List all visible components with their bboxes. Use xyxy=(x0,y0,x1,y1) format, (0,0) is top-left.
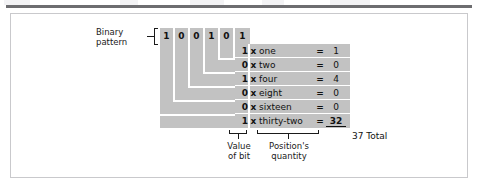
bit-strip-right-cutout xyxy=(250,28,350,44)
bit-cell: 1 xyxy=(235,28,250,44)
equals-symbol: = xyxy=(314,46,326,56)
equals-symbol: = xyxy=(314,102,326,112)
row-result: 0 xyxy=(326,60,346,70)
binary-bit-row: 1 0 0 1 0 1 xyxy=(160,28,250,44)
place-name: four xyxy=(259,74,314,84)
binary-pattern-caption-line1: Binary xyxy=(96,27,146,37)
place-name: sixteen xyxy=(259,102,314,112)
place-name: thirty-two xyxy=(259,116,314,126)
equation-row: 1 x thirty-two = 32 xyxy=(235,114,350,128)
binary-pattern-caption: Binary pattern xyxy=(96,27,146,47)
bit-cell: 0 xyxy=(175,28,190,44)
equals-symbol: = xyxy=(314,88,326,98)
equation-rows: 1 x one = 1 0 x two = 0 1 x four = 4 xyxy=(235,44,350,128)
equation-row: 0 x sixteen = 0 xyxy=(235,100,350,114)
stair-connector-four-h xyxy=(203,72,235,74)
stair-connector-thirtytwo-h xyxy=(160,114,235,116)
bit-cell: 1 xyxy=(160,28,175,44)
times-symbol: x xyxy=(248,74,259,84)
equation-row: 1 x four = 4 xyxy=(235,72,350,86)
row-result: 4 xyxy=(326,74,346,84)
place-name: one xyxy=(259,46,314,56)
value-of-bit-bracket-stem xyxy=(238,134,239,139)
place-name: two xyxy=(259,60,314,70)
times-symbol: x xyxy=(248,102,259,112)
row-bit-value: 1 xyxy=(235,74,248,84)
positions-quantity-label-line2: quantity xyxy=(258,151,320,161)
row-bit-value: 0 xyxy=(235,60,248,70)
row-result: 1 xyxy=(326,46,346,56)
row-bit-value: 1 xyxy=(235,116,248,126)
stair-connector-two-h xyxy=(218,58,235,60)
row-result: 0 xyxy=(326,88,346,98)
row-bit-value: 1 xyxy=(235,46,248,56)
times-symbol: x xyxy=(248,46,259,56)
stair-connector-eight-v xyxy=(188,44,190,88)
binary-pattern-caption-line2: pattern xyxy=(96,37,146,47)
row-bit-value: 0 xyxy=(235,88,248,98)
figure-root: Binary pattern 1 0 0 1 0 1 xyxy=(0,0,480,188)
times-symbol: x xyxy=(248,116,259,126)
equation-row: 0 x eight = 0 xyxy=(235,86,350,100)
bit-cell: 0 xyxy=(190,28,205,44)
bit-cell: 0 xyxy=(220,28,235,44)
stair-connector-eight-h xyxy=(188,86,235,88)
equals-symbol: = xyxy=(314,116,326,126)
equation-row: 0 x two = 0 xyxy=(235,58,350,72)
stair-connector-sixteen-v xyxy=(173,44,175,102)
equals-symbol: = xyxy=(314,74,326,84)
stair-connector-sixteen-h xyxy=(173,100,235,102)
equals-symbol: = xyxy=(314,60,326,70)
place-name: eight xyxy=(259,88,314,98)
row-result: 0 xyxy=(326,102,346,112)
total-label: 37 Total xyxy=(352,131,387,141)
stair-connector-four-v xyxy=(203,44,205,74)
positions-quantity-label: Position's quantity xyxy=(258,141,320,161)
equation-row: 1 x one = 1 xyxy=(235,44,350,58)
top-horizontal-rule xyxy=(6,5,472,8)
caption-left-bracket xyxy=(154,28,158,45)
times-symbol: x xyxy=(248,88,259,98)
bit-cell: 1 xyxy=(205,28,220,44)
diagram-gray-block: 1 0 0 1 0 1 1 x xyxy=(160,28,350,128)
row-bit-value: 0 xyxy=(235,102,248,112)
positions-quantity-label-line1: Position's xyxy=(258,141,320,151)
positions-quantity-bracket-stem xyxy=(288,134,289,139)
row-result-total-addend: 32 xyxy=(326,116,346,127)
times-symbol: x xyxy=(248,60,259,70)
